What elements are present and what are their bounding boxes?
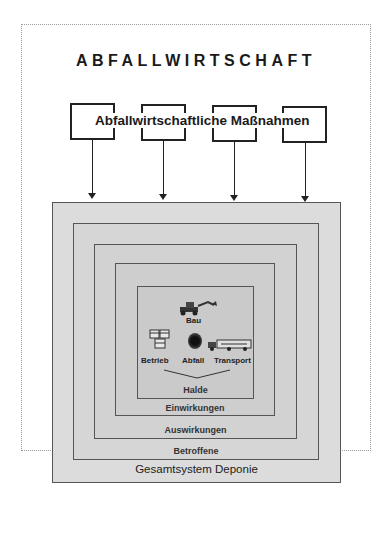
- layer-label: Halde: [138, 385, 253, 395]
- arrow-line-1: [92, 140, 93, 194]
- waste-blob-icon: [188, 333, 202, 349]
- arrow-down-icon: [88, 193, 96, 199]
- core-label-abfall: Abfall: [182, 356, 204, 365]
- core-label-bau: Bau: [186, 316, 201, 325]
- core-label-betrieb: Betrieb: [141, 356, 169, 365]
- layer-label: Einwirkungen: [116, 403, 274, 413]
- layer-label: Auswirkungen: [95, 425, 296, 435]
- arrow-down-icon: [230, 195, 238, 201]
- chevron-down-icon: [162, 368, 232, 380]
- core-label-transport: Transport: [214, 356, 251, 365]
- diagram-title: ABFALLWIRTSCHAFT: [0, 52, 392, 70]
- barrels-icon: [149, 328, 175, 350]
- layer-label: Gesamtsystem Deponie: [53, 463, 340, 475]
- measures-label: Abfallwirtschaftliche Maßnahmen: [94, 113, 311, 128]
- arrow-line-4: [305, 143, 306, 197]
- arrow-down-icon: [159, 194, 167, 200]
- truck-icon: [207, 338, 253, 352]
- arrow-line-3: [234, 142, 235, 196]
- layer-label: Betroffene: [74, 446, 318, 456]
- excavator-icon: [178, 300, 218, 316]
- arrow-line-2: [163, 141, 164, 195]
